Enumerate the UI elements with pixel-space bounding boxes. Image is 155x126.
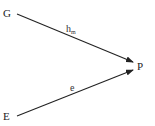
node-p: P [137, 60, 143, 72]
edge-e-to-p [17, 70, 133, 116]
edge-label-g-p: hm [66, 23, 76, 35]
node-g: G [3, 7, 11, 19]
edge-label-g-p-subscript: m [71, 29, 76, 35]
node-e: E [3, 110, 10, 122]
edge-label-e-p: e [70, 82, 75, 93]
edge-g-to-p [17, 14, 133, 62]
diagram-canvas: G E P hm e [0, 0, 155, 126]
